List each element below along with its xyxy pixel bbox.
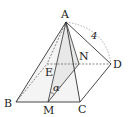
label-E: E [45,66,53,79]
pyramid-diagram: A B C D E M N α 4 [0,0,129,117]
label-alpha: α [53,82,60,93]
label-M: M [43,104,54,117]
label-length-4: 4 [90,30,97,41]
label-B: B [4,97,12,110]
label-A: A [60,8,70,21]
edge-CD [80,64,111,102]
label-C: C [78,103,86,116]
label-N: N [79,50,89,63]
label-D: D [113,58,122,71]
